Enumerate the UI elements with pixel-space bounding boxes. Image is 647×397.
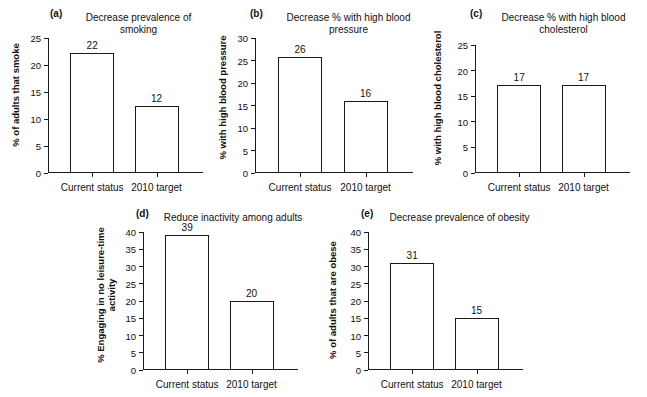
- panel-d-ytick-label: 10: [125, 330, 136, 341]
- panel-a-ytick-label: 15: [30, 87, 41, 98]
- panel-c-plot: 0510152025Current status172010 target17: [475, 45, 630, 173]
- panel-b: (b) Decrease % with high blood pressure …: [215, 0, 430, 197]
- panel-c-ytick-label: 5: [463, 142, 468, 153]
- panel-b-xtick: [300, 173, 301, 177]
- figure-panel-grid: (a) Decrease prevalence of smoking % of …: [0, 0, 647, 397]
- panel-a-ytick-label: 0: [36, 168, 41, 179]
- panel-d-bar-value-1: 39: [182, 222, 193, 233]
- panel-c-title: Decrease % with high blood cholesterol: [486, 12, 641, 36]
- panel-c-ytick: [471, 45, 475, 46]
- panel-c-ytick-label: 0: [463, 168, 468, 179]
- panel-b-ytick-label: 25: [237, 55, 248, 66]
- panel-a-ytick-label: 20: [30, 60, 41, 71]
- panel-a-ytick: [44, 92, 48, 93]
- panel-b-xtick-label-2: 2010 target: [340, 182, 391, 193]
- panel-a-title: Decrease prevalence of smoking: [66, 12, 211, 36]
- panel-c-ylabel: % with high blood cholesterol: [432, 18, 443, 178]
- panel-a-plot: 0510152025Current status222010 target12: [48, 38, 203, 173]
- panel-d-bar-value-2: 20: [246, 288, 257, 299]
- panel-b-ytick: [251, 105, 255, 106]
- panel-b-ytick-label: 30: [237, 33, 248, 44]
- panel-d-bar-1: [165, 235, 209, 370]
- panel-c-ytick: [471, 70, 475, 71]
- panel-e-ytick-label: 20: [350, 296, 361, 307]
- panel-a-bar-1: [70, 53, 114, 173]
- panel-a-xtick: [157, 173, 158, 177]
- panel-c-ytick-label: 15: [457, 91, 468, 102]
- panel-e-ytick: [364, 283, 368, 284]
- panel-a-ytick-label: 10: [30, 114, 41, 125]
- panel-e-ytick: [364, 249, 368, 250]
- panel-d-ytick: [139, 266, 143, 267]
- panel-e-xtick-label-2: 2010 target: [451, 379, 502, 390]
- panel-c-bar-2: [562, 85, 606, 173]
- panel-a-letter: (a): [50, 8, 62, 19]
- panel-e-ytick: [364, 318, 368, 319]
- panel-d-ylabel: % Engaging in no leisure-time activity: [95, 205, 117, 385]
- panel-b-ytick: [251, 83, 255, 84]
- panel-e-bar-1: [390, 263, 434, 370]
- panel-b-ytick: [251, 38, 255, 39]
- panel-c-letter: (c): [470, 8, 482, 19]
- panel-c-bar-1: [497, 85, 541, 173]
- panel-e-letter: (e): [361, 208, 373, 219]
- panel-c-ytick: [471, 96, 475, 97]
- panel-b-xtick-label-1: Current status: [269, 182, 332, 193]
- panel-a-ytick: [44, 173, 48, 174]
- panel-d-ytick-label: 40: [125, 227, 136, 238]
- panel-a-bar-value-1: 22: [87, 40, 98, 51]
- panel-a-xtick-label-1: Current status: [61, 182, 124, 193]
- panel-e-xtick: [477, 370, 478, 374]
- panel-d-ytick: [139, 232, 143, 233]
- panel-b-ylabel: % with high blood pressure: [217, 25, 228, 170]
- panel-d-xtick: [252, 370, 253, 374]
- panel-d-ytick-label: 25: [125, 278, 136, 289]
- panel-e-bar-value-2: 15: [471, 305, 482, 316]
- panel-d-plot: 0510152025303540Current status392010 tar…: [143, 232, 298, 370]
- panel-c: (c) Decrease % with high blood cholester…: [430, 0, 647, 197]
- panel-d-ytick-label: 15: [125, 313, 136, 324]
- panel-e-ytick-label: 35: [350, 244, 361, 255]
- panel-a: (a) Decrease prevalence of smoking % of …: [0, 0, 215, 197]
- panel-e-ytick-label: 15: [350, 313, 361, 324]
- panel-a-ytick: [44, 119, 48, 120]
- panel-d-xtick-label-2: 2010 target: [226, 379, 277, 390]
- panel-a-xtick: [92, 173, 93, 177]
- panel-a-bar-value-2: 12: [151, 93, 162, 104]
- panel-d-ytick-label: 0: [131, 365, 136, 376]
- panel-c-ytick: [471, 147, 475, 148]
- panel-c-xtick: [519, 173, 520, 177]
- panel-b-ytick: [251, 128, 255, 129]
- panel-c-bar-value-2: 17: [578, 72, 589, 83]
- panel-b-ytick: [251, 173, 255, 174]
- panel-e-ytick: [364, 352, 368, 353]
- panel-b-ytick: [251, 150, 255, 151]
- panel-e: (e) Decrease prevalence of obesity % of …: [325, 200, 575, 397]
- panel-c-ytick: [471, 173, 475, 174]
- panel-c-bar-value-1: 17: [514, 72, 525, 83]
- panel-b-letter: (b): [250, 8, 263, 19]
- panel-b-ytick-label: 5: [243, 145, 248, 156]
- panel-b-bar-value-1: 26: [294, 44, 305, 55]
- panel-c-ytick-label: 10: [457, 116, 468, 127]
- panel-e-ytick-label: 0: [356, 365, 361, 376]
- panel-c-ytick-label: 25: [457, 40, 468, 51]
- panel-d-ytick-label: 35: [125, 244, 136, 255]
- panel-e-plot: 0510152025303540Current status312010 tar…: [368, 232, 523, 370]
- panel-e-y-axis: [368, 232, 369, 370]
- panel-d-ytick: [139, 318, 143, 319]
- panel-c-ytick: [471, 121, 475, 122]
- panel-b-ytick-label: 10: [237, 123, 248, 134]
- panel-d-ytick: [139, 249, 143, 250]
- panel-d-xtick-label-1: Current status: [156, 379, 219, 390]
- panel-a-ytick: [44, 38, 48, 39]
- panel-d-ytick-label: 5: [131, 347, 136, 358]
- panel-a-ytick-label: 25: [30, 33, 41, 44]
- panel-d-ytick-label: 30: [125, 261, 136, 272]
- panel-d-ytick: [139, 370, 143, 371]
- panel-b-bar-value-2: 16: [360, 88, 371, 99]
- panel-a-ylabel: % of adults that smoke: [10, 25, 21, 165]
- panel-e-ytick: [364, 370, 368, 371]
- panel-d-ytick-label: 20: [125, 296, 136, 307]
- panel-c-xtick-label-2: 2010 target: [558, 182, 609, 193]
